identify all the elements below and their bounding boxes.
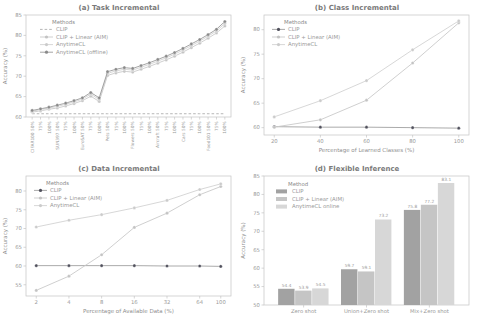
chart-title: (a) Task Incremental bbox=[79, 4, 160, 12]
y-tick-label: 55 bbox=[15, 282, 22, 288]
data-point bbox=[114, 68, 117, 71]
x-tick-label: 20 bbox=[271, 138, 278, 144]
x-tick-label: 40 bbox=[317, 138, 324, 144]
x-tick-label: CIFAR100 50% bbox=[30, 122, 35, 153]
y-tick-label: 65 bbox=[15, 93, 22, 99]
y-tick-label: 85 bbox=[253, 173, 260, 179]
data-point bbox=[365, 126, 368, 129]
data-point bbox=[319, 118, 322, 121]
data-point bbox=[131, 67, 134, 70]
x-tick-label: 100% bbox=[72, 122, 77, 134]
chart-canvas-b: (b) Class Incremental6065707580Accuracy … bbox=[238, 0, 476, 161]
x-tick-label: 8 bbox=[100, 299, 104, 305]
y-tick-label: 70 bbox=[253, 228, 260, 234]
x-tick-label: 60 bbox=[363, 138, 370, 144]
bar-anytimecl-online bbox=[312, 288, 328, 305]
x-tick-label: 100 bbox=[216, 299, 227, 305]
data-point bbox=[198, 193, 201, 196]
legend-label: AnytimeCL bbox=[56, 41, 85, 48]
data-point bbox=[365, 99, 368, 102]
legend-label: AnytimeCL online bbox=[292, 203, 340, 210]
x-tick-label: 75% bbox=[38, 122, 43, 132]
legend-swatch bbox=[276, 197, 287, 201]
data-point bbox=[100, 264, 103, 267]
data-point bbox=[100, 213, 103, 216]
chart-title: (d) Flexible Inference bbox=[315, 165, 400, 173]
data-point bbox=[173, 51, 176, 54]
legend-marker bbox=[277, 43, 280, 46]
data-point bbox=[165, 199, 168, 202]
data-point bbox=[457, 19, 460, 22]
chart-canvas-c: (c) Data Incremental556065707580Accuracy… bbox=[0, 161, 238, 322]
legend-swatch bbox=[276, 189, 287, 193]
y-axis-label: Accuracy (%) bbox=[2, 218, 9, 254]
results-figure: (a) Task Incremental606570758085Accuracy… bbox=[0, 0, 477, 323]
legend-marker bbox=[277, 28, 280, 31]
x-tick-label: Flowers 50% bbox=[130, 122, 135, 149]
bar-clip bbox=[341, 269, 357, 305]
legend: MethodsCLIPCLIP + Linear (AIM)AnytimeCL bbox=[272, 19, 340, 48]
bar-anytimecl-online bbox=[375, 219, 391, 305]
y-tick-label: 65 bbox=[253, 247, 260, 253]
y-tick-label: 70 bbox=[253, 75, 260, 81]
y-axis-label: Accuracy (%) bbox=[240, 222, 247, 258]
legend-title: Methods bbox=[284, 19, 307, 25]
x-tick-label: Aircraft 50% bbox=[155, 122, 160, 149]
y-tick-label: 75 bbox=[253, 51, 260, 57]
bar-value-label: 59.7 bbox=[345, 263, 355, 268]
x-tick-label: 75% bbox=[88, 122, 93, 132]
x-axis-label: Percentage of Available Data (%) bbox=[83, 308, 174, 315]
legend-label: AnytimeCL bbox=[288, 41, 317, 48]
data-point bbox=[198, 38, 201, 41]
data-point bbox=[67, 275, 70, 278]
legend-marker bbox=[39, 204, 42, 207]
legend-label: CLIP bbox=[288, 26, 300, 32]
data-point bbox=[206, 33, 209, 36]
y-tick-label: 80 bbox=[253, 191, 260, 197]
x-tick-label: 2 bbox=[35, 299, 38, 305]
x-tick-label: 100% bbox=[47, 122, 52, 134]
legend: MethodsCLIPCLIP + Linear (AIM)AnytimeCLA… bbox=[40, 19, 108, 56]
data-point bbox=[198, 264, 201, 267]
x-tick-label: Mix+Zero shot bbox=[410, 308, 449, 314]
y-tick-label: 70 bbox=[15, 225, 22, 231]
subplot-flexible-inference: (d) Flexible Inference5055606570758085Ac… bbox=[238, 161, 476, 322]
data-point bbox=[148, 61, 151, 64]
data-point bbox=[133, 264, 136, 267]
data-point bbox=[72, 99, 75, 102]
bar-value-label: 54.4 bbox=[282, 283, 292, 288]
legend-marker bbox=[45, 35, 48, 38]
x-tick-label: 4 bbox=[67, 299, 71, 305]
bar-clip-linear-aim- bbox=[358, 271, 374, 305]
x-tick-label: EuroSAT 50% bbox=[80, 122, 85, 151]
legend: MethodsCLIPCLIP + Linear (AIM)AnytimeCL bbox=[34, 180, 102, 209]
data-point bbox=[98, 96, 101, 99]
y-tick-label: 60 bbox=[15, 263, 22, 269]
x-tick-label: Food101 50% bbox=[206, 122, 211, 151]
legend-marker bbox=[39, 196, 42, 199]
legend-label: CLIP bbox=[50, 187, 62, 193]
data-point bbox=[67, 264, 70, 267]
legend-label: AnytimeCL bbox=[50, 202, 79, 209]
data-point bbox=[319, 126, 322, 129]
bar-value-label: 59.1 bbox=[362, 265, 372, 270]
bar-clip-linear-aim- bbox=[295, 291, 311, 305]
x-tick-label: SUN397 50% bbox=[55, 122, 60, 150]
x-tick-label: 75% bbox=[63, 122, 68, 132]
data-point bbox=[123, 66, 126, 69]
bar-clip bbox=[404, 210, 420, 305]
bar-clip bbox=[278, 289, 294, 305]
subplot-class-incremental: (b) Class Incremental6065707580Accuracy … bbox=[238, 0, 476, 161]
x-tick-label: 64 bbox=[196, 299, 203, 305]
x-axis-label: Percentage of Learned Classes (%) bbox=[319, 147, 415, 154]
data-point bbox=[31, 109, 34, 112]
data-point bbox=[64, 102, 67, 105]
data-point bbox=[219, 265, 222, 268]
legend-swatch bbox=[276, 205, 287, 209]
x-tick-label: Union+Zero shot bbox=[344, 308, 389, 314]
legend-label: CLIP + Linear (AIM) bbox=[56, 34, 108, 40]
data-point bbox=[219, 182, 222, 185]
data-point bbox=[457, 127, 460, 130]
data-point bbox=[365, 79, 368, 82]
data-point bbox=[89, 91, 92, 94]
